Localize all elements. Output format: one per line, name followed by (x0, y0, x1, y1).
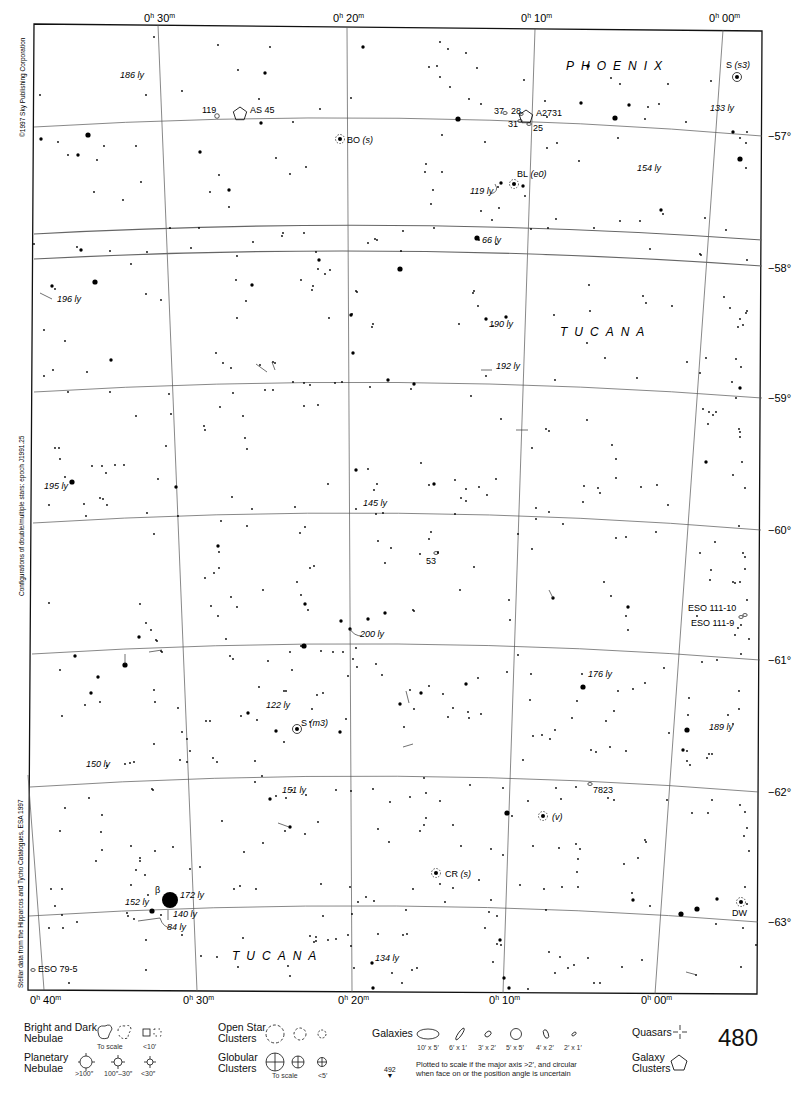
object-ESO79-5[interactable]: ESO 79-5 (31, 964, 78, 974)
star (317, 258, 320, 261)
star (225, 638, 227, 640)
object-DW[interactable]: DW (732, 898, 747, 919)
object-label: BL (e0) (517, 169, 547, 179)
star (334, 382, 336, 384)
star (467, 711, 469, 713)
star (746, 827, 748, 829)
distance-label: 84 ly (167, 922, 187, 932)
star (615, 537, 617, 539)
star (114, 464, 116, 466)
object-CR[interactable]: CR (s) (432, 869, 472, 880)
star (535, 507, 537, 509)
star (523, 79, 525, 81)
star (621, 966, 623, 968)
star (349, 313, 352, 316)
star-chart: ©1997 Sky Publishing Corporation Configu… (0, 0, 809, 1093)
ra-top-labels: 0h 30m0h 20m0h 10m0h 00m (144, 12, 740, 24)
star (145, 622, 147, 624)
distance-label: 176 ly (588, 669, 613, 679)
object-AS45[interactable]: AS 45 (233, 105, 274, 120)
object-ESO111-9[interactable]: ESO 111-9 (691, 616, 743, 629)
star (268, 797, 271, 800)
object-NGC7823[interactable]: 7823 (588, 783, 613, 796)
star (219, 406, 221, 408)
star (347, 675, 349, 677)
object-S_s3[interactable]: S (s3) (726, 60, 750, 82)
star (617, 137, 619, 139)
star (419, 830, 421, 832)
star (583, 485, 585, 487)
star (135, 145, 137, 147)
star (517, 533, 519, 535)
object-NGC53[interactable]: 53 (426, 552, 438, 567)
star (700, 254, 702, 256)
star (243, 851, 245, 853)
open-cluster-icon-small (318, 1030, 326, 1038)
star (239, 885, 241, 887)
star (48, 504, 50, 506)
page-number: 480 (718, 1024, 758, 1052)
continuation-page-link[interactable]: 492 ▼ (384, 1066, 396, 1079)
object-BO[interactable]: BO (s) (336, 135, 374, 146)
star (319, 108, 321, 110)
star (496, 943, 498, 945)
star (338, 730, 341, 733)
star (544, 100, 546, 102)
object-BL[interactable]: BL (e0) (510, 169, 547, 189)
star (549, 738, 551, 740)
star (231, 496, 233, 498)
star (548, 951, 550, 953)
star (54, 905, 56, 907)
object-S_m3[interactable]: S (m3) (293, 718, 329, 734)
star (502, 854, 504, 856)
object-g31[interactable]: 31 (508, 119, 522, 129)
data-source-text: Stellar data from the Hipparcos and Tych… (17, 799, 25, 988)
star (203, 425, 205, 427)
object-A2731[interactable]: A2731 (519, 108, 562, 123)
star (154, 850, 156, 852)
dec-label: −59° (768, 392, 791, 404)
star (199, 866, 201, 868)
globular-to-scale-label: To scale (272, 1072, 298, 1079)
star (524, 195, 526, 197)
galaxy-icon-10x5 (417, 1029, 439, 1039)
star (73, 654, 76, 657)
star (153, 36, 155, 38)
object-beta[interactable]: β (155, 885, 160, 895)
star (43, 375, 45, 377)
star (484, 317, 487, 320)
star (554, 972, 556, 974)
object-g28[interactable]: 28 (511, 106, 523, 116)
star (313, 941, 315, 943)
object-g37[interactable]: 37 (494, 106, 507, 116)
star (229, 655, 231, 657)
star (441, 134, 443, 136)
star (546, 147, 548, 149)
galaxy-size-5: 2′ x 1′ (564, 1044, 582, 1051)
star (430, 531, 432, 533)
star (473, 290, 475, 292)
object-g25[interactable]: 25 (527, 123, 543, 134)
star (350, 790, 352, 792)
star (571, 717, 573, 719)
ra-top-label: 0h 30m (144, 12, 175, 24)
star (488, 911, 490, 913)
star (424, 171, 426, 173)
star (133, 761, 135, 763)
star (586, 419, 588, 421)
star (460, 497, 462, 499)
star (420, 462, 422, 464)
distance-label: 189 ly (709, 722, 734, 732)
galaxy-size-0: 10′ x 5′ (417, 1044, 439, 1051)
object-119[interactable]: 119 (202, 105, 219, 118)
star (517, 654, 519, 656)
star (707, 812, 709, 814)
quasar-icon (672, 1024, 688, 1040)
star (140, 181, 142, 183)
star (317, 268, 319, 270)
star (490, 848, 492, 850)
object-v[interactable]: (v) (539, 812, 563, 823)
object-ESO111-10[interactable]: ESO 111-10 (688, 603, 747, 617)
star (309, 384, 311, 386)
star (64, 807, 66, 809)
